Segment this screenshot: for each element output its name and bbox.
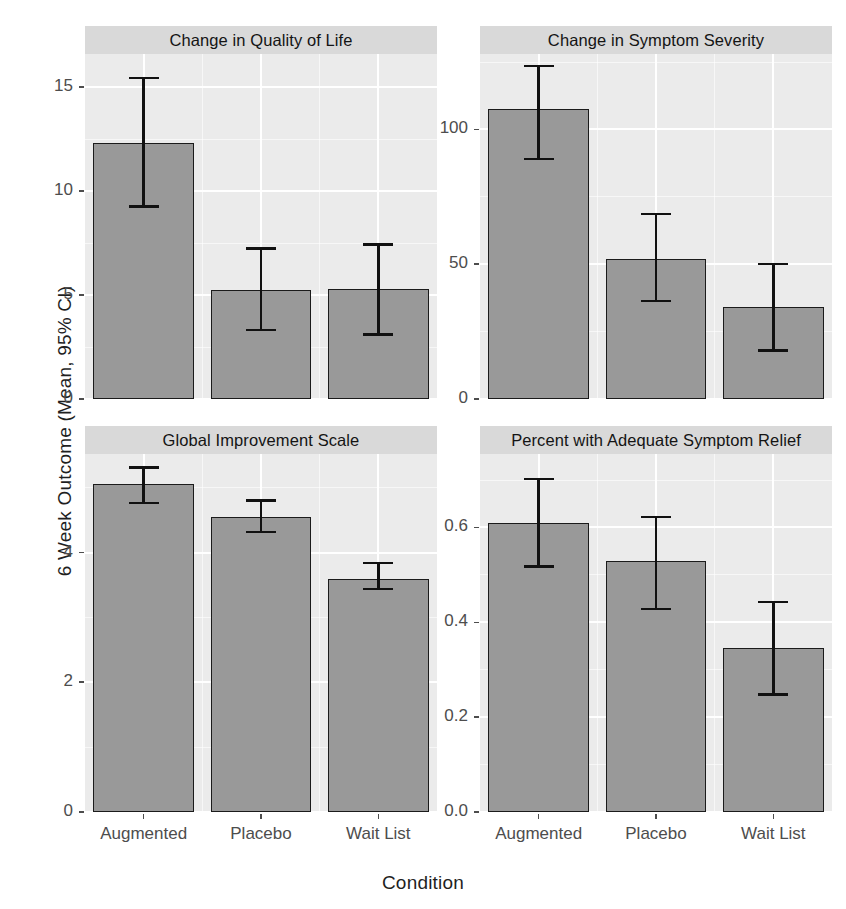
x-tick-mark — [538, 814, 540, 819]
error-bar-cap-lower — [758, 349, 788, 351]
error-bar-cap-upper — [246, 247, 276, 249]
error-bar-cap-lower — [524, 158, 554, 160]
y-tick-mark — [474, 811, 479, 813]
x-tick-label: Wait List — [308, 824, 448, 844]
gridline-vertical-minor — [319, 454, 320, 812]
error-bar-cap-lower — [641, 300, 671, 302]
plot-area — [480, 54, 832, 399]
gridline-vertical-minor — [597, 454, 598, 812]
y-tick-label: 0 — [17, 801, 73, 821]
gridline-vertical-minor — [714, 454, 715, 812]
error-bar-cap-lower — [758, 693, 788, 695]
gridline-vertical-minor — [202, 54, 203, 399]
error-bar-line — [142, 77, 144, 208]
error-bar-cap-upper — [524, 478, 554, 480]
facet-panel: Global Improvement Scale — [85, 426, 437, 812]
x-tick-mark — [655, 814, 657, 819]
y-tick-label: 0.2 — [412, 706, 468, 726]
facet-panel: Change in Quality of Life — [85, 26, 437, 399]
y-tick-label: 0 — [17, 388, 73, 408]
y-tick-label: 0 — [412, 388, 468, 408]
error-bar-line — [772, 601, 774, 696]
x-tick-mark — [143, 814, 145, 819]
error-bar-cap-lower — [246, 531, 276, 533]
y-tick-mark — [474, 622, 479, 624]
y-tick-label: 2 — [17, 671, 73, 691]
y-tick-label: 0.0 — [412, 801, 468, 821]
y-tick-mark — [474, 398, 479, 400]
plot-area — [480, 454, 832, 812]
error-bar-cap-upper — [246, 499, 276, 501]
error-bar-cap-lower — [524, 565, 554, 567]
facet-panel: Percent with Adequate Symptom Relief — [480, 426, 832, 812]
x-tick-mark — [260, 814, 262, 819]
bar — [93, 484, 194, 812]
error-bar-line — [260, 247, 262, 331]
facet-panel: Change in Symptom Severity — [480, 26, 832, 399]
error-bar-cap-upper — [363, 243, 393, 245]
error-bar-line — [655, 213, 657, 302]
y-tick-label: 100 — [412, 118, 468, 138]
y-tick-mark — [79, 398, 84, 400]
error-bar-cap-lower — [129, 502, 159, 504]
gridline-vertical-minor — [597, 54, 598, 399]
y-tick-mark — [474, 129, 479, 131]
error-bar-line — [260, 499, 262, 533]
y-tick-mark — [474, 263, 479, 265]
y-tick-label: 10 — [17, 180, 73, 200]
error-bar-cap-upper — [758, 263, 788, 265]
error-bar-cap-upper — [129, 466, 159, 468]
y-tick-label: 0.6 — [412, 516, 468, 536]
plot-area — [85, 454, 437, 812]
x-tick-mark — [378, 814, 380, 819]
y-tick-mark — [79, 552, 84, 554]
error-bar-cap-upper — [641, 213, 671, 215]
y-tick-mark — [474, 527, 479, 529]
error-bar-line — [655, 516, 657, 611]
y-axis-title: 6 Week Outcome (Mean, 95% CI) — [54, 151, 76, 711]
y-tick-mark — [79, 190, 84, 192]
y-tick-mark — [474, 716, 479, 718]
error-bar-line — [537, 478, 539, 568]
y-tick-label: 50 — [412, 253, 468, 273]
gridline-vertical-minor — [319, 54, 320, 399]
y-tick-label: 5 — [17, 284, 73, 304]
error-bar-cap-upper — [758, 601, 788, 603]
error-bar-cap-upper — [641, 516, 671, 518]
y-tick-mark — [79, 811, 84, 813]
error-bar-cap-lower — [246, 329, 276, 331]
y-tick-label: 0.4 — [412, 611, 468, 631]
y-tick-mark — [79, 86, 84, 88]
figure-container: 6 Week Outcome (Mean, 95% CI) Condition … — [0, 0, 846, 909]
error-bar-cap-lower — [641, 608, 671, 610]
plot-area — [85, 54, 437, 399]
error-bar-cap-upper — [129, 77, 159, 79]
error-bar-line — [537, 65, 539, 161]
y-tick-label: 4 — [17, 542, 73, 562]
panel-title: Global Improvement Scale — [85, 426, 437, 454]
x-tick-mark — [773, 814, 775, 819]
bar — [211, 517, 312, 812]
y-tick-mark — [79, 294, 84, 296]
gridline-vertical-minor — [714, 54, 715, 399]
panel-title: Percent with Adequate Symptom Relief — [480, 426, 832, 454]
y-tick-mark — [79, 681, 84, 683]
error-bar-cap-lower — [363, 588, 393, 590]
x-axis-title: Condition — [0, 872, 846, 894]
panel-title: Change in Quality of Life — [85, 26, 437, 54]
error-bar-cap-lower — [363, 333, 393, 335]
error-bar-cap-upper — [363, 562, 393, 564]
error-bar-line — [772, 263, 774, 352]
error-bar-line — [142, 466, 144, 504]
error-bar-line — [377, 562, 379, 591]
gridline-vertical-minor — [202, 454, 203, 812]
error-bar-cap-lower — [129, 205, 159, 207]
error-bar-cap-upper — [524, 65, 554, 67]
y-tick-label: 15 — [17, 76, 73, 96]
error-bar-line — [377, 243, 379, 335]
x-tick-label: Wait List — [703, 824, 843, 844]
panel-title: Change in Symptom Severity — [480, 26, 832, 54]
